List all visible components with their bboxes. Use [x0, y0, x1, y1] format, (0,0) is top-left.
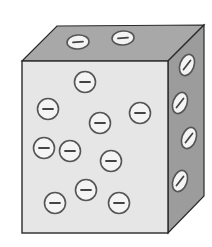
negative-charge-icon: [109, 193, 130, 214]
negative-charge-icon: [130, 103, 151, 124]
negative-charge-icon: [34, 138, 55, 159]
negative-charge-icon: [76, 180, 97, 201]
negative-charge-icon: [45, 193, 66, 214]
negative-charge-icon: [90, 113, 111, 134]
negative-charge-icon: [67, 34, 90, 50]
negative-charge-icon: [75, 72, 96, 93]
negative-charge-icon: [38, 99, 59, 120]
negative-charge-icon: [112, 30, 135, 46]
negative-charge-icon: [60, 141, 81, 162]
charged-box-diagram: [0, 0, 212, 247]
negative-charge-icon: [101, 151, 122, 172]
